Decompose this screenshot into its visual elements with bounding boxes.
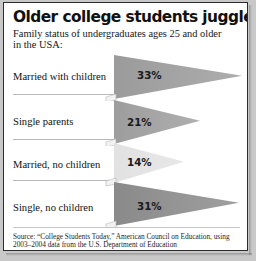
chart-row: Single parents21% [4,100,248,143]
page-title: Older college students juggle family [13,9,241,26]
bar-value-label: 21% [127,116,152,128]
bar-wedge [4,55,248,101]
header: Older college students juggle family Fam… [13,9,241,51]
chart-row: Married with children33% [4,55,248,98]
bar-wedge [4,182,248,228]
source-note: Source: “College Students Today,” Americ… [13,233,239,250]
bar-chart: Married with children33%Single parents21… [4,55,248,227]
bar-wedge [4,100,248,146]
page-subtitle: Family status of undergraduates ages 25 … [13,28,228,51]
bar-value-label: 14% [127,156,152,168]
chart-row: Single, no children31% [4,182,248,225]
bar-value-label: 31% [137,200,162,212]
source-divider [13,227,240,228]
bar-value-label: 33% [137,69,162,81]
infographic-card: Older college students juggle family Fam… [3,2,248,251]
chart-row: Married, no children14% [4,143,248,186]
card-shadow-bottom [6,253,252,256]
card-shadow-right [249,5,252,255]
infographic-page: Older college students juggle family Fam… [0,0,256,261]
